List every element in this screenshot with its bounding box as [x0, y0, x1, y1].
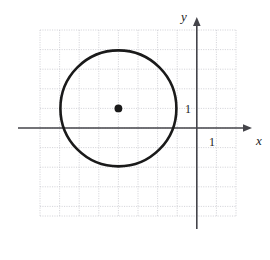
y-axis: [193, 17, 201, 229]
y-axis-tick-label-1: 1: [185, 102, 191, 116]
grid-lines: [40, 30, 236, 216]
grid-horizontal-lines: [40, 30, 236, 216]
coordinate-plot: y x 1 1: [0, 0, 270, 260]
grid-vertical-lines: [40, 30, 236, 216]
circle-center-point: [115, 105, 123, 113]
x-axis-label: x: [255, 133, 262, 148]
y-axis-label: y: [179, 9, 187, 24]
x-axis-tick-label-1: 1: [209, 135, 215, 149]
figure-container: y x 1 1: [0, 0, 270, 260]
x-axis: [18, 124, 252, 132]
